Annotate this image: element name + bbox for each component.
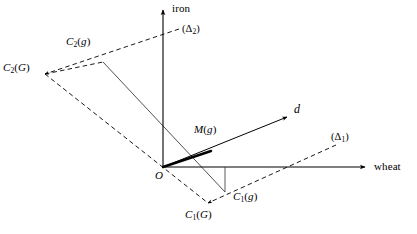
wheat-axis-label: wheat [374, 161, 401, 172]
mg-tail-close: ) [213, 123, 217, 135]
delta2-tail: ) [196, 23, 200, 34]
c1G-tail-close: ) [208, 208, 212, 220]
delta1-main: (Δ [331, 131, 341, 142]
mg-main: M [194, 123, 203, 135]
delta2-sub: 2 [192, 27, 196, 36]
point-label-c2g: C2(g) [66, 36, 90, 47]
direction-d-line [163, 117, 287, 167]
c1g-tail-close: ) [254, 190, 258, 202]
point-label-c1g: C1(g) [233, 191, 257, 202]
delta1-tail: ) [345, 131, 349, 142]
delta2-label: (Δ2) [182, 24, 200, 35]
c2g-tail-close: ) [87, 35, 91, 47]
c2G-sub: 2 [10, 66, 14, 75]
point-label-c1G: C1(G) [185, 209, 212, 220]
direction-d-label: d [294, 103, 300, 115]
c2G-tail-close: ) [26, 61, 30, 73]
c1G-tail-italic: G [200, 208, 208, 220]
point-label-mg: M(g) [194, 124, 216, 135]
origin-label: O [155, 170, 163, 181]
delta1-sub: 1 [341, 135, 345, 144]
c2g-sub: 2 [73, 40, 77, 49]
delta1-line [208, 145, 336, 203]
c2G-tail-italic: G [18, 61, 26, 73]
c1G-sub: 1 [192, 213, 196, 222]
diagram-svg [0, 0, 417, 234]
frontier-line [45, 74, 208, 203]
point-label-c2G: C2(G) [3, 62, 30, 73]
c1g-sub: 1 [240, 195, 244, 204]
diagram-canvas: iron wheat O d C2(g) C2(G) C1(g) C1(G) M… [0, 0, 417, 234]
delta2-main: (Δ [182, 23, 192, 34]
iron-axis-label: iron [172, 3, 190, 14]
bold-segment-om [163, 151, 211, 167]
delta1-label: (Δ1) [331, 132, 349, 143]
